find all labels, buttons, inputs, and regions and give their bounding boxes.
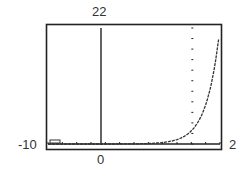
- plot-area: [0, 0, 244, 176]
- axis-ticks: [48, 28, 220, 144]
- cursor-marker: [50, 140, 60, 143]
- window-frame: [47, 25, 222, 150]
